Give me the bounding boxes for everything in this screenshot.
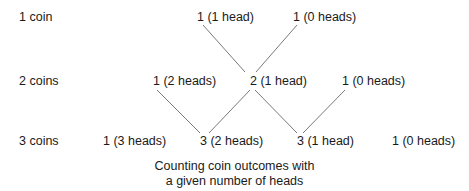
- caption-line-1: Counting coin outcomes with: [0, 159, 469, 174]
- node-2coins-1head: 2 (1 head): [250, 74, 307, 88]
- node-2coins-0heads: 1 (0 heads): [342, 74, 405, 88]
- edge-1h-to-2-1h: [203, 25, 245, 72]
- figure-caption: Counting coin outcomes with a given numb…: [0, 159, 469, 189]
- node-1coin-0heads: 1 (0 heads): [293, 10, 356, 24]
- edge-0h-to-2-1h: [256, 25, 297, 72]
- row-label-1-coin: 1 coin: [19, 10, 52, 24]
- edge-2h-to-3-2h: [157, 90, 200, 133]
- edge-2-1h-to-3-1h: [255, 90, 297, 133]
- row-label-2-coins: 2 coins: [19, 74, 59, 88]
- edge-2-1h-to-3-2h: [209, 90, 250, 133]
- node-1coin-1head: 1 (1 head): [197, 10, 254, 24]
- edge-2-0h-to-3-1h: [303, 90, 345, 133]
- node-3coins-0heads: 1 (0 heads): [392, 134, 455, 148]
- row-label-3-coins: 3 coins: [19, 134, 59, 148]
- node-3coins-2heads: 3 (2 heads): [200, 134, 263, 148]
- node-2coins-2heads: 1 (2 heads): [153, 74, 216, 88]
- node-3coins-1head: 3 (1 head): [297, 134, 354, 148]
- node-3coins-3heads: 1 (3 heads): [103, 134, 166, 148]
- caption-line-2: a given number of heads: [0, 174, 469, 189]
